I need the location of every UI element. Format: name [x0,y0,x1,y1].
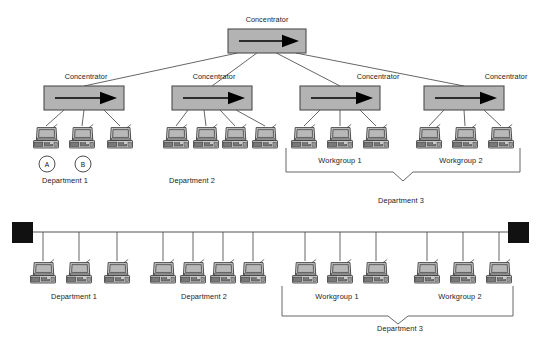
concentrator-label-1: Concentrator [65,72,108,81]
root-concentrator-label: Concentrator [246,15,289,24]
computer-icon-top-6 [253,124,278,148]
concentrator-label-3: Concentrator [357,72,400,81]
computer-icon-bottom-0 [31,259,56,283]
drop-line-top-5 [220,110,235,126]
bus-terminator-1 [508,222,529,243]
trunk-line-2 [276,53,340,86]
computer-icon-bottom-8 [328,259,353,283]
computer-icon-bottom-12 [487,259,512,283]
drop-line-top-4 [204,110,206,126]
concentrator-label-2: Concentrator [193,72,236,81]
drop-line-top-7 [304,110,320,126]
group-label-bottom-0: Department 1 [51,292,97,301]
computer-icon-top-9 [364,124,389,148]
computer-icon-bottom-1 [67,259,92,283]
drop-line-top-2 [104,110,120,126]
computer-icon-top-11 [453,124,478,148]
computer-icon-top-12 [489,124,514,148]
group-label-top-3: Workgroup 2 [439,156,482,165]
concentrator-label-4: Concentrator [485,72,528,81]
group-label-bottom-3: Workgroup 2 [438,292,481,301]
computer-icon-bottom-5 [211,259,236,283]
drop-line-top-12 [484,110,501,126]
trunk-line-1 [212,53,257,86]
group-label-bottom-1: Department 2 [181,292,227,301]
computer-icon-bottom-10 [415,259,440,283]
computer-icon-bottom-3 [151,259,176,283]
bus-terminator-0 [12,222,33,243]
group-label-top-2: Workgroup 1 [318,156,361,165]
computer-icon-top-10 [417,124,442,148]
trunk-line-0 [84,53,237,86]
computer-icon-bottom-2 [105,259,130,283]
drop-line-top-1 [82,110,84,126]
group-label-top-0: Department 1 [42,176,88,185]
computer-icon-top-0 [34,124,59,148]
computer-icon-top-7 [292,124,317,148]
computer-icon-top-8 [328,124,353,148]
network-diagram-canvas: ConcentratorConcentratorConcentratorConc… [0,0,541,345]
group-label-bottom-2: Workgroup 1 [315,292,358,301]
node-circle-label-b: B [81,161,85,168]
computer-icon-top-1 [70,124,95,148]
trunk-line-3 [296,53,464,86]
computer-icon-bottom-7 [293,259,318,283]
computer-icon-top-5 [223,124,248,148]
node-circle-label-a: A [45,161,49,168]
computer-icon-top-2 [108,124,133,148]
drop-line-top-10 [429,110,444,126]
computer-icon-bottom-11 [451,259,476,283]
drop-line-top-11 [464,110,465,126]
drop-line-top-0 [46,110,64,126]
drop-line-top-6 [236,110,265,126]
computer-icon-bottom-4 [181,259,206,283]
group-label-top-1: Department 2 [169,176,215,185]
drop-line-top-3 [176,110,188,126]
computer-icon-top-4 [194,124,219,148]
group-label-top-4: Department 3 [378,196,424,205]
computer-icon-top-3 [164,124,189,148]
computer-icon-bottom-9 [364,259,389,283]
computer-icon-bottom-6 [241,259,266,283]
group-label-bottom-4: Department 3 [377,324,423,333]
drop-line-top-9 [360,110,376,126]
